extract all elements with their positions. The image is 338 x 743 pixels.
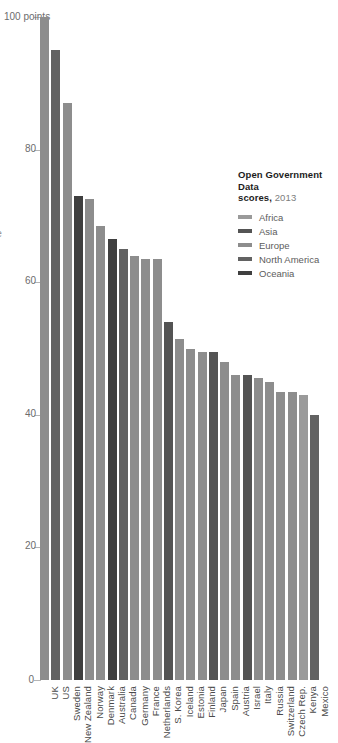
legend: Open Government Data scores, 2013 Africa… (238, 169, 338, 282)
x-axis-label: Italy (262, 686, 273, 704)
bar[interactable] (243, 375, 252, 680)
bar[interactable] (119, 249, 128, 680)
legend-title-line2: scores, (238, 192, 272, 203)
x-axis-label: Israel (251, 686, 262, 710)
bar[interactable] (310, 415, 319, 680)
x-axis-label: Russia (274, 686, 285, 716)
x-axis-label: Iceland (184, 686, 195, 717)
x-axis-label: Czech Rep. (296, 686, 307, 737)
y-axis-tick-label-80: 80 (25, 143, 36, 154)
legend-swatch (238, 229, 252, 233)
bar[interactable] (130, 256, 139, 680)
tick-mark-0 (34, 680, 41, 681)
y-axis-tick-label-40: 40 (25, 408, 36, 419)
bar[interactable] (220, 362, 229, 680)
legend-title-year: 2013 (275, 192, 297, 203)
x-axis-label: Sweden (71, 686, 82, 721)
x-axis-label: Switzerland (285, 686, 296, 736)
legend-title: Open Government Data scores, 2013 (238, 169, 338, 204)
legend-label: Oceania (259, 268, 294, 279)
bar[interactable] (96, 226, 105, 680)
legend-label: Europe (259, 240, 290, 251)
legend-label: Africa (259, 212, 283, 223)
y-axis-tick-label-20: 20 (25, 540, 36, 551)
gridline-0 (40, 680, 322, 682)
legend-label: North America (259, 254, 319, 265)
x-axis-label: Germany (139, 686, 150, 726)
x-axis-label: UK (49, 686, 60, 699)
legend-item-oceania[interactable]: Oceania (238, 268, 338, 279)
x-axis-label: Kenya (307, 686, 318, 713)
bar[interactable] (209, 352, 218, 680)
legend-swatch (238, 271, 252, 275)
bar[interactable] (51, 50, 60, 680)
x-axis-label: Estonia (195, 686, 206, 718)
x-axis-label: Canada (127, 686, 138, 720)
bar[interactable] (85, 199, 94, 680)
bar[interactable] (141, 259, 150, 680)
bar[interactable] (186, 349, 195, 681)
legend-item-africa[interactable]: Africa (238, 212, 338, 223)
x-axis-label: Norway (94, 686, 105, 719)
bar[interactable] (175, 339, 184, 680)
legend-item-europe[interactable]: Europe (238, 240, 338, 251)
legend-swatch (238, 257, 252, 261)
x-axis-label: Mexico (319, 686, 330, 717)
legend-item-north-america[interactable]: North America (238, 254, 338, 265)
x-axis-label: New Zealand (82, 686, 93, 743)
x-axis-label: Netherlands (161, 686, 172, 738)
clipped-edge-caption: le (0, 228, 2, 239)
bar[interactable] (288, 392, 297, 680)
legend-swatch (238, 243, 252, 247)
x-axis-label: Australia (116, 686, 127, 724)
x-axis-label: Austria (240, 686, 251, 716)
x-axis-label: S. Korea (172, 686, 183, 724)
plot-area (40, 17, 322, 680)
bar[interactable] (265, 382, 274, 680)
bar[interactable] (153, 259, 162, 680)
x-axis-label: Finland (206, 686, 217, 718)
x-axis-label: Spain (229, 686, 240, 711)
bar[interactable] (254, 378, 263, 680)
legend-item-asia[interactable]: Asia (238, 226, 338, 237)
bar[interactable] (63, 103, 72, 680)
bar[interactable] (108, 239, 117, 680)
bar[interactable] (40, 17, 49, 680)
y-axis-tick-label-0: 0 (28, 674, 34, 685)
legend-swatch (238, 215, 252, 219)
legend-label: Asia (259, 226, 277, 237)
bar[interactable] (198, 352, 207, 680)
x-axis-label: Denmark (105, 686, 116, 725)
bar[interactable] (74, 196, 83, 680)
legend-items: AfricaAsiaEuropeNorth AmericaOceania (238, 212, 338, 279)
legend-title-line1: Open Government Data (238, 169, 322, 192)
bar[interactable] (231, 375, 240, 680)
x-axis-label: US (60, 686, 71, 699)
x-axis-label: France (150, 686, 161, 716)
bar[interactable] (299, 395, 308, 680)
y-axis-tick-label-60: 60 (25, 275, 36, 286)
bar[interactable] (276, 392, 285, 680)
x-axis-label: Japan (217, 686, 228, 712)
bar[interactable] (164, 322, 173, 680)
